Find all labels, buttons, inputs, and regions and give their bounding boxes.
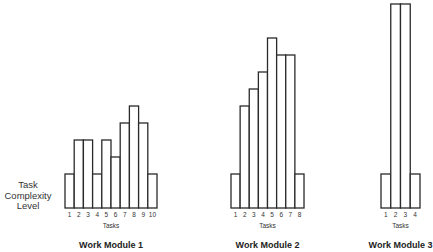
x-axis-label: Tasks xyxy=(103,222,120,229)
bar-task-5 xyxy=(102,140,111,208)
chart-title: Work Module 1 xyxy=(79,240,143,250)
x-tick-label: 1 xyxy=(68,211,72,218)
bar-task-3 xyxy=(249,89,258,208)
bar-task-4 xyxy=(258,72,267,208)
bar-task-1 xyxy=(381,174,391,208)
bar-task-2 xyxy=(391,4,401,208)
bar-task-2 xyxy=(240,106,249,208)
bar-task-4 xyxy=(93,174,102,208)
x-tick-label: 5 xyxy=(105,211,109,218)
bar-task-9 xyxy=(139,123,148,208)
x-tick-label: 3 xyxy=(404,211,408,218)
x-tick-label: 4 xyxy=(261,211,265,218)
x-tick-label: 4 xyxy=(95,211,99,218)
bar-task-4 xyxy=(410,174,420,208)
work-module-charts: 12345678910TasksWork Module 112345678Tas… xyxy=(0,0,433,252)
x-tick-label: 1 xyxy=(384,211,388,218)
chart-title: Work Module 2 xyxy=(236,240,300,250)
x-tick-label: 8 xyxy=(132,211,136,218)
x-tick-label: 4 xyxy=(413,211,417,218)
x-tick-label: 2 xyxy=(394,211,398,218)
x-tick-label: 6 xyxy=(114,211,118,218)
x-tick-label: 8 xyxy=(298,211,302,218)
bar-task-1 xyxy=(65,174,74,208)
bar-task-8 xyxy=(295,174,304,208)
bar-task-5 xyxy=(268,38,277,208)
x-tick-label: 5 xyxy=(270,211,274,218)
work-module-1-chart: 12345678910TasksWork Module 1 xyxy=(65,106,157,250)
bar-task-3 xyxy=(401,4,411,208)
x-tick-label: 3 xyxy=(86,211,90,218)
bar-task-3 xyxy=(83,140,92,208)
bar-task-8 xyxy=(129,106,138,208)
x-tick-label: 2 xyxy=(77,211,81,218)
x-tick-label: 7 xyxy=(123,211,127,218)
bar-task-7 xyxy=(120,123,129,208)
x-axis-label: Tasks xyxy=(259,222,276,229)
work-module-2-chart: 12345678TasksWork Module 2 xyxy=(231,38,304,250)
x-tick-label: 3 xyxy=(252,211,256,218)
bar-task-6 xyxy=(111,157,120,208)
x-tick-label: 2 xyxy=(243,211,247,218)
bar-task-2 xyxy=(74,140,83,208)
chart-title: Work Module 3 xyxy=(369,240,433,250)
bar-task-7 xyxy=(286,55,295,208)
bar-task-6 xyxy=(277,55,286,208)
bar-task-1 xyxy=(231,174,240,208)
x-tick-label: 10 xyxy=(149,211,157,218)
x-tick-label: 6 xyxy=(279,211,283,218)
x-axis-label: Tasks xyxy=(392,222,409,229)
work-module-3-chart: 1234TasksWork Module 3 xyxy=(369,4,433,250)
x-tick-label: 7 xyxy=(288,211,292,218)
x-tick-label: 1 xyxy=(234,211,238,218)
bar-task-10 xyxy=(148,174,157,208)
x-tick-label: 9 xyxy=(141,211,145,218)
